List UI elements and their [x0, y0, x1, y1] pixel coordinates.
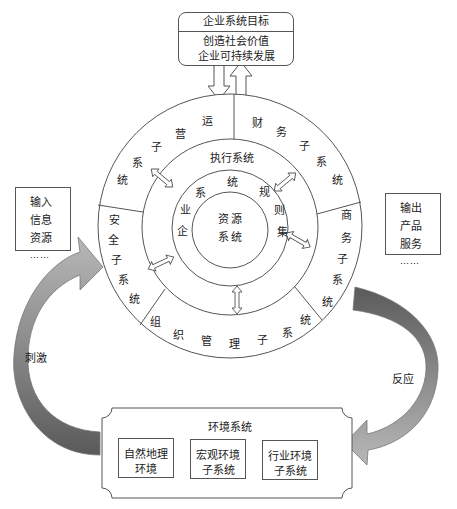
- input-box: 输入 信息 资源 ……: [15, 187, 71, 251]
- env-sub-line: 宏观环境: [191, 448, 245, 463]
- env-sub-line: 环境: [119, 462, 173, 477]
- core-line-1: 资源: [205, 211, 257, 229]
- outer-char: 统: [127, 293, 141, 307]
- response-label: 反应: [392, 370, 414, 386]
- outer-char: 子: [109, 254, 123, 268]
- outer-char: 商: [339, 209, 353, 223]
- industry-environment-box: 行业环境 子系统: [262, 440, 318, 480]
- outer-char: 系: [280, 327, 294, 341]
- rules-char: 则: [272, 204, 286, 218]
- outer-char: 系: [314, 156, 328, 170]
- input-line: 资源: [30, 230, 70, 248]
- outer-char: 全: [106, 234, 120, 248]
- macro-environment-box: 宏观环境 子系统: [190, 439, 246, 479]
- input-ellipsis: ……: [30, 248, 70, 262]
- rules-char: 企: [175, 225, 189, 239]
- outer-char: 系: [130, 157, 144, 171]
- outer-char: 统: [320, 296, 334, 310]
- outer-char: 组: [148, 316, 162, 330]
- env-sub-line: 行业环境: [263, 449, 317, 464]
- outer-char: 理: [227, 338, 241, 352]
- enterprise-goal-box: 企业系统目标 创造社会价值 企业可持续发展: [178, 12, 294, 66]
- natural-geography-environment-box: 自然地理 环境: [118, 438, 174, 478]
- outer-char: 统: [330, 174, 344, 188]
- output-line: 产品: [400, 218, 440, 236]
- outer-char: 营: [173, 128, 187, 142]
- goal-line-1: 创造社会价值: [179, 34, 293, 49]
- execution-system-label: 执行系统: [210, 149, 254, 165]
- rules-char: 规: [257, 186, 271, 200]
- outer-char: 系: [116, 274, 130, 288]
- outer-char: 织: [171, 329, 185, 343]
- outer-char: 子: [335, 253, 349, 267]
- outer-char: 安: [107, 214, 121, 228]
- output-line: 输出: [400, 200, 440, 218]
- rules-char: 统: [225, 176, 239, 190]
- rules-char: 集: [275, 226, 289, 240]
- env-sub-line: 子系统: [263, 464, 317, 479]
- outer-char: 子: [297, 140, 311, 154]
- output-box: 输出 产品 服务 ……: [385, 193, 441, 255]
- outer-char: 统: [115, 174, 129, 188]
- rules-char: 系: [193, 187, 207, 201]
- stimulus-label: 刺激: [25, 349, 47, 365]
- outer-char: 运: [200, 115, 214, 129]
- rules-char: 业: [178, 204, 192, 218]
- goal-title: 企业系统目标: [179, 13, 293, 32]
- resource-system-core: 资源 系统: [205, 211, 257, 247]
- core-line-2: 系统: [205, 229, 257, 247]
- outer-char: 子: [255, 334, 269, 348]
- env-sub-line: 自然地理: [119, 447, 173, 462]
- outer-char: 务: [274, 126, 288, 140]
- stimulus-arrow: [14, 237, 103, 455]
- output-line: 服务: [400, 236, 440, 254]
- outer-char: 子: [149, 141, 163, 155]
- outer-char: 系: [330, 274, 344, 288]
- environment-title: 环境系统: [120, 418, 340, 434]
- input-line: 信息: [30, 212, 70, 230]
- env-sub-line: 子系统: [191, 463, 245, 478]
- goal-line-2: 企业可持续发展: [179, 49, 293, 64]
- outer-char: 统: [298, 314, 312, 328]
- outer-char: 管: [199, 335, 213, 349]
- input-line: 输入: [30, 194, 70, 212]
- outer-char: 务: [339, 232, 353, 246]
- output-ellipsis: ……: [400, 254, 440, 268]
- outer-char: 财: [250, 117, 264, 131]
